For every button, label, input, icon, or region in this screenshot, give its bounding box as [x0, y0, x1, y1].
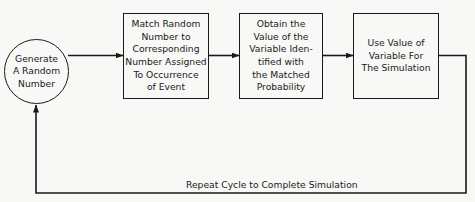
node-text: Value of the [249, 31, 312, 44]
node-text: Variable For [362, 50, 431, 63]
node-text: Probability [249, 81, 312, 94]
feedback-loop-label: Repeat Cycle to Complete Simulation [186, 179, 358, 190]
node-text: Number Assigned [125, 56, 206, 69]
node-match-random-number: Match Random Number to Corresponding Num… [123, 13, 209, 99]
node-generate-random-number: Generate A Random Number [4, 39, 69, 104]
node-text: Corresponding [125, 43, 206, 56]
node-text: Number [13, 78, 60, 91]
node-text: Match Random [125, 18, 206, 31]
node-text: the Matched [249, 69, 312, 82]
node-text: A Random [13, 65, 60, 78]
node-text: The Simulation [362, 62, 431, 75]
node-text: To Occurrence [125, 69, 206, 82]
node-text: Use Value of [362, 37, 431, 50]
node-use-value: Use Value of Variable For The Simulation [353, 13, 439, 99]
node-text: Number to [125, 31, 206, 44]
node-text: Variable Iden- [249, 43, 312, 56]
node-obtain-value: Obtain the Value of the Variable Iden- t… [239, 13, 323, 99]
node-text: Obtain the [249, 18, 312, 31]
node-text: tified with [249, 56, 312, 69]
node-text: of Event [125, 81, 206, 94]
node-text: Generate [13, 53, 60, 66]
